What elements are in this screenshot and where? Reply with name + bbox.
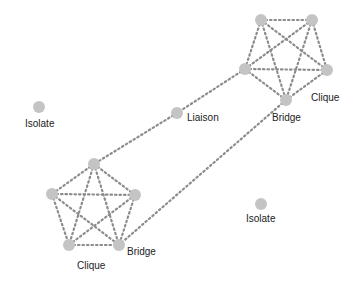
node-c1b [306,14,318,26]
node-c2b [46,188,58,200]
network-diagram: Isolate Liaison Clique Bridge Isolate Br… [0,0,359,284]
node-c1e [280,94,292,106]
label-liaison: Liaison [187,112,219,123]
edge [261,20,327,70]
node-c1c [239,63,251,75]
node-c2e [113,239,125,251]
edge [69,164,94,245]
node-c1d [321,64,333,76]
label-clique-bottom: Clique [77,260,106,271]
edge [94,164,135,195]
edge [286,20,312,100]
node-c2d [63,239,75,251]
edge [119,195,135,245]
label-isolate-right: Isolate [246,213,276,224]
edge [52,194,119,245]
edge [245,20,312,69]
label-clique-top: Clique [311,92,340,103]
node-c2a [88,158,100,170]
node-liaison [171,107,183,119]
node-c1a [255,14,267,26]
node-c2c [129,189,141,201]
edge [52,194,69,245]
edges [52,20,327,245]
edge [312,20,327,70]
edge [177,69,245,113]
edge [52,194,135,195]
edge [94,113,177,164]
edge [52,164,94,194]
label-bridge-bottom: Bridge [127,246,156,257]
edge [94,164,119,245]
label-isolate-left: Isolate [25,118,55,129]
edge [245,20,261,69]
edge [245,69,286,100]
node-iso1 [33,101,45,113]
node-iso2 [255,198,267,210]
edge [245,69,327,70]
label-bridge-top: Bridge [272,112,301,123]
edge [261,20,286,100]
edge [69,195,135,245]
